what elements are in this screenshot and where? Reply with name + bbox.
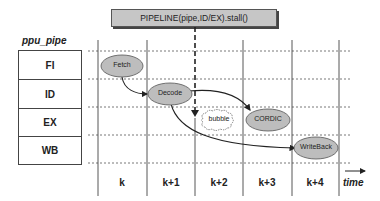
node-fetch-label: Fetch [101, 61, 143, 68]
node-cordic-label: CORDIC [246, 115, 290, 122]
node-bubble-label: bubble [200, 115, 238, 122]
fetch-to-decode-arrow [122, 77, 147, 94]
time-slot-k3: k+3 [243, 177, 291, 188]
time-slot-k4: k+4 [291, 177, 339, 188]
pipeline-grid [0, 0, 380, 201]
time-slot-k: k [98, 177, 146, 188]
time-slot-k1: k+1 [147, 177, 195, 188]
time-axis-label: time [343, 177, 364, 188]
node-writeback-label: WriteBack [294, 143, 338, 150]
time-slot-k2: k+2 [195, 177, 243, 188]
node-decode-label: Decode [148, 89, 192, 96]
stall-arrow [191, 27, 199, 117]
